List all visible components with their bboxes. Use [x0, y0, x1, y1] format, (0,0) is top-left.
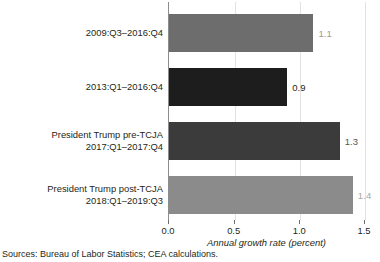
x-tick-label-0: 0.0: [161, 225, 174, 236]
bar-1: [169, 68, 287, 106]
category-label-3: President Trump post-TCJA 2018:Q1–2019:Q…: [1, 183, 163, 207]
bar-2: [169, 122, 340, 160]
category-label-row: 2009:Q3–2016:Q4: [0, 14, 163, 52]
category-label-row: President Trump pre-TCJA 2017:Q1–2017:Q4: [0, 122, 163, 160]
category-label-1: 2013:Q1–2016:Q4: [1, 81, 163, 93]
source-note: Sources: Bureau of Labor Statistics; CEA…: [2, 249, 218, 259]
x-tick-label-3: 1.5: [357, 225, 370, 236]
category-label-row: 2013:Q1–2016:Q4: [0, 68, 163, 106]
bar-3: [169, 176, 353, 214]
bar-row: 1.4: [169, 176, 366, 214]
category-label-1-line1: 2013:Q1–2016:Q4: [86, 81, 163, 92]
x-tick-mark-3: [364, 220, 365, 224]
bar-row: 1.3: [169, 122, 366, 160]
bar-row: 1.1: [169, 14, 366, 52]
category-label-2-line2: 2017:Q1–2017:Q4: [1, 141, 163, 153]
bar-value-1: 0.9: [292, 82, 306, 93]
x-tick-mark-1: [234, 220, 235, 224]
x-tick-label-1: 0.5: [227, 225, 240, 236]
category-label-row: President Trump post-TCJA 2018:Q1–2019:Q…: [0, 176, 163, 214]
category-label-column: 2009:Q3–2016:Q4 2013:Q1–2016:Q4 Presiden…: [0, 2, 163, 220]
x-tick-label-2: 1.0: [293, 225, 306, 236]
plot-area: 1.1 0.9 1.3 1.4: [168, 2, 366, 220]
category-label-0-line1: 2009:Q3–2016:Q4: [86, 27, 163, 38]
bar-row: 0.9: [169, 68, 366, 106]
x-tick-mark-0: [168, 220, 169, 224]
x-tick-mark-2: [299, 220, 300, 224]
bar-chart-figure: 2009:Q3–2016:Q4 2013:Q1–2016:Q4 Presiden…: [0, 0, 380, 262]
category-label-3-line2: 2018:Q1–2019:Q3: [1, 195, 163, 207]
bar-value-0: 1.1: [318, 28, 332, 39]
category-label-2: President Trump pre-TCJA 2017:Q1–2017:Q4: [1, 129, 163, 153]
bar-value-3: 1.4: [358, 190, 372, 201]
bar-0: [169, 14, 313, 52]
x-axis-title: Annual growth rate (percent): [168, 237, 365, 248]
category-label-2-line1: President Trump pre-TCJA: [52, 129, 164, 140]
category-label-3-line1: President Trump post-TCJA: [47, 183, 163, 194]
bar-value-2: 1.3: [345, 136, 359, 147]
category-label-0: 2009:Q3–2016:Q4: [1, 27, 163, 39]
